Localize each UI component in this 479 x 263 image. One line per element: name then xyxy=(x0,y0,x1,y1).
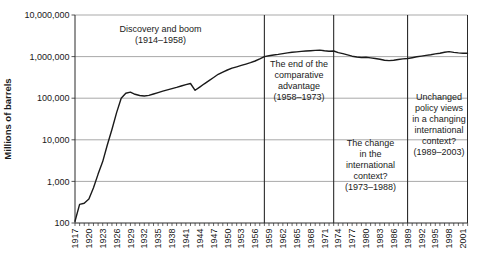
annotation-line: (1914–1958) xyxy=(135,35,186,45)
annotation-end-comparative-advantage: The end of thecomparativeadvantage(1958–… xyxy=(270,59,328,102)
production-line xyxy=(75,50,468,221)
annotation-line: Unchanged xyxy=(416,92,462,102)
y-tick-label: 1,000,000 xyxy=(29,52,69,62)
annotation-change-international-context: The changein theinternationalcontext?(19… xyxy=(345,138,396,192)
x-tick-label: 1938 xyxy=(167,229,177,249)
x-tick-label: 1968 xyxy=(306,229,316,249)
annotation-line: (1989–2003) xyxy=(413,147,464,157)
annotation-discovery-boom: Discovery and boom(1914–1958) xyxy=(119,24,201,45)
plot-border xyxy=(75,15,468,223)
x-tick-label: 1941 xyxy=(181,229,191,249)
x-tick-label: 1947 xyxy=(209,229,219,249)
annotation-line: international xyxy=(414,125,463,135)
x-tick-label: 1962 xyxy=(278,229,288,249)
annotation-line: The end of the xyxy=(270,59,328,69)
x-tick-label: 1995 xyxy=(430,229,440,249)
annotation-line: The change xyxy=(347,138,395,148)
y-gridlines xyxy=(75,15,468,223)
annotation-line: advantage xyxy=(278,81,320,91)
x-tick-label: 1923 xyxy=(98,229,108,249)
y-tick-label: 10,000 xyxy=(42,135,70,145)
annotation-unchanged-policy-views: Unchangedpolicy viewsin a changingintern… xyxy=(412,92,466,157)
oil-production-chart: 1001,00010,000100,0001,000,00010,000,000… xyxy=(0,0,479,263)
x-tick-label: 1920 xyxy=(84,229,94,249)
x-tick-label: 1935 xyxy=(153,229,163,249)
x-tick-label: 2001 xyxy=(458,229,468,249)
annotation-line: policy views xyxy=(415,103,464,113)
x-tick-label: 1944 xyxy=(195,229,205,249)
annotation-line: international xyxy=(346,160,395,170)
x-tick-label: 1929 xyxy=(126,229,136,249)
x-tick-label: 1956 xyxy=(250,229,260,249)
x-tick-label: 1971 xyxy=(320,229,330,249)
x-tick-label: 1932 xyxy=(139,229,149,249)
x-axis: 1917192019231926192919321935193819411944… xyxy=(70,223,468,249)
x-tick-label: 1974 xyxy=(333,229,343,249)
y-tick-label: 1,000 xyxy=(47,177,70,187)
annotation-line: in the xyxy=(360,149,382,159)
x-tick-label: 1917 xyxy=(70,229,80,249)
annotation-line: (1973–1988) xyxy=(345,182,396,192)
y-tick-label: 10,000,000 xyxy=(24,10,69,20)
x-tick-label: 1926 xyxy=(112,229,122,249)
x-tick-label: 1965 xyxy=(292,229,302,249)
x-tick-label: 1989 xyxy=(403,229,413,249)
x-tick-label: 1986 xyxy=(389,229,399,249)
annotations: Discovery and boom(1914–1958)The end of … xyxy=(119,24,465,192)
annotation-line: context? xyxy=(354,171,388,181)
annotation-line: in a changing xyxy=(412,114,466,124)
annotation-line: (1958–1973) xyxy=(273,92,324,102)
y-axis: 1001,00010,000100,0001,000,00010,000,000 xyxy=(24,10,75,228)
annotation-line: Discovery and boom xyxy=(119,24,201,34)
annotation-line: comparative xyxy=(275,70,324,80)
x-tick-label: 1983 xyxy=(375,229,385,249)
x-tick-label: 1992 xyxy=(417,229,427,249)
x-tick-label: 1953 xyxy=(236,229,246,249)
x-tick-label: 1959 xyxy=(264,229,274,249)
x-tick-label: 1998 xyxy=(444,229,454,249)
x-tick-label: 1950 xyxy=(223,229,233,249)
oil-production-figure: 1001,00010,000100,0001,000,00010,000,000… xyxy=(0,0,479,263)
y-tick-label: 100,000 xyxy=(37,93,70,103)
y-tick-label: 100 xyxy=(54,218,69,228)
annotation-line: context? xyxy=(422,136,456,146)
x-tick-label: 1980 xyxy=(361,229,371,249)
y-axis-title: Millions of barrels xyxy=(2,78,13,159)
x-tick-label: 1977 xyxy=(347,229,357,249)
